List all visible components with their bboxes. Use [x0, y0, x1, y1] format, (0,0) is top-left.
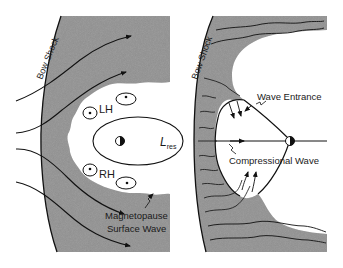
resonance-field-line [93, 117, 183, 165]
magnetopause-label: Magnetopause [105, 210, 168, 221]
magnetosphere-diagram: Bow Shock LH RH Lres Magnetopause Surfa [0, 0, 343, 268]
lh-label: LH [99, 103, 113, 115]
wave-arrow [237, 101, 241, 116]
surface-wave-label: Surface Wave [107, 223, 166, 234]
lh-vortex-ellipse [116, 93, 136, 105]
wave-entrance-label: Wave Entrance [257, 91, 322, 102]
compressional-wave-pointer [229, 144, 236, 154]
compressional-wave-label: Compressional Wave [229, 155, 319, 166]
vortex-dot [89, 112, 92, 115]
left-panel: Bow Shock LH RH Lres Magnetopause Surfa [16, 16, 183, 252]
left-earth-icon [116, 137, 125, 146]
vortex-dot [126, 182, 129, 185]
lower-field-line [258, 143, 289, 194]
resonance-label: Lres [160, 135, 177, 150]
right-magnetosheath-region [194, 16, 327, 252]
right-panel: Bow Shock [189, 16, 327, 252]
wave-arrow [242, 172, 248, 190]
rh-label: RH [99, 168, 115, 180]
wave-arrow [245, 106, 251, 111]
vortex-dot [89, 168, 92, 171]
wave-arrow [229, 103, 234, 118]
vortex-dot [125, 96, 128, 99]
right-earth-icon [286, 137, 295, 146]
wave-arrow [252, 172, 256, 192]
